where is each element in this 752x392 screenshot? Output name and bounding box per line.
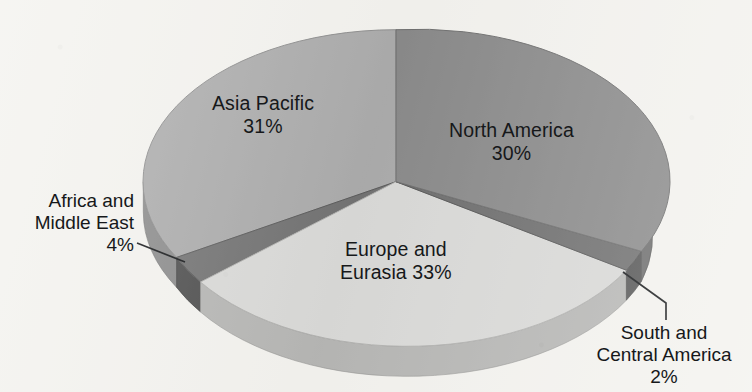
slice-label-africa-middle-east: Africa and Middle East 4% — [12, 190, 134, 256]
pie-chart-figure: North America 30% Asia Pacific 31% Europ… — [0, 0, 752, 392]
slice-label-europe-eurasia: Europe and Eurasia 33% — [340, 238, 452, 284]
slice-label-north-america: North America 30% — [449, 119, 574, 165]
slice-label-asia-pacific: Asia Pacific 31% — [212, 92, 314, 138]
slice-label-south-central-america: South and Central America 2% — [588, 322, 740, 388]
